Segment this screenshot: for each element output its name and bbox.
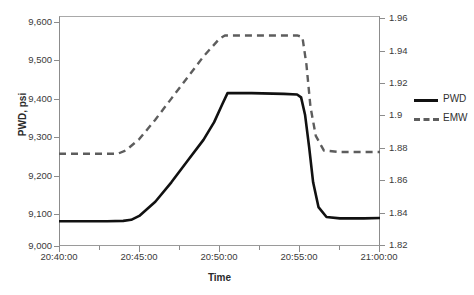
chart-legend: PWD EMW bbox=[414, 92, 474, 130]
y-axis-title: PWD, psi bbox=[17, 70, 28, 160]
ytick-label-right: 1.84 bbox=[389, 208, 408, 218]
ytick-label-right: 1.82 bbox=[389, 240, 408, 250]
ytick-label-left: 9,500 bbox=[8, 55, 52, 65]
legend-item-emw: EMW bbox=[414, 111, 474, 130]
ytick-label-left: 9,300 bbox=[8, 132, 52, 142]
xtick-mark-minor bbox=[99, 246, 100, 250]
xtick-label: 20:45:00 bbox=[108, 252, 170, 262]
legend-label: EMW bbox=[443, 112, 467, 123]
ytick-mark-left bbox=[54, 176, 59, 177]
ytick-mark-right bbox=[380, 213, 385, 214]
ytick-mark-right bbox=[380, 115, 385, 116]
ytick-mark-right bbox=[380, 18, 385, 19]
chart-screenshot: 9,600 9,500 9,400 9,300 9,200 9,100 9,00… bbox=[0, 0, 474, 295]
xtick-label: 20:55:00 bbox=[268, 252, 330, 262]
ytick-mark-right bbox=[380, 148, 385, 149]
chart-title bbox=[59, 0, 380, 1]
ytick-label-left: 9,100 bbox=[8, 209, 52, 219]
ytick-mark-right bbox=[380, 245, 385, 246]
plot-lines bbox=[59, 16, 380, 246]
legend-label: PWD bbox=[443, 93, 466, 104]
x-axis-title: Time bbox=[59, 272, 380, 283]
series-line-emw bbox=[59, 35, 380, 153]
ytick-label-left: 9,200 bbox=[8, 171, 52, 181]
ytick-label-right: 1.9 bbox=[389, 110, 402, 120]
ytick-mark-left bbox=[54, 137, 59, 138]
legend-swatch-solid-icon bbox=[414, 99, 438, 102]
ytick-label-left: 9,000 bbox=[8, 241, 52, 251]
ytick-mark-right bbox=[380, 180, 385, 181]
ytick-label-right: 1.94 bbox=[389, 46, 408, 56]
ytick-label-right: 1.86 bbox=[389, 175, 408, 185]
xtick-label: 20:50:00 bbox=[188, 252, 250, 262]
ytick-mark-right bbox=[380, 83, 385, 84]
xtick-label: 20:40:00 bbox=[28, 252, 90, 262]
ytick-mark-left bbox=[54, 214, 59, 215]
legend-swatch-dashed-icon bbox=[414, 118, 439, 121]
chart-figure: 9,600 9,500 9,400 9,300 9,200 9,100 9,00… bbox=[0, 0, 474, 295]
ytick-label-left: 9,400 bbox=[8, 94, 52, 104]
ytick-mark-left bbox=[54, 60, 59, 61]
xtick-mark-minor bbox=[179, 246, 180, 250]
ytick-label-right: 1.92 bbox=[389, 78, 408, 88]
xtick-mark-minor bbox=[339, 246, 340, 250]
ytick-label-right: 1.96 bbox=[389, 13, 408, 23]
ytick-mark-left bbox=[54, 22, 59, 23]
ytick-label-right: 1.88 bbox=[389, 143, 408, 153]
ytick-label-left: 9,600 bbox=[8, 17, 52, 27]
series-line-pwd bbox=[59, 93, 380, 221]
xtick-mark-minor bbox=[259, 246, 260, 250]
legend-item-pwd: PWD bbox=[414, 92, 474, 111]
ytick-mark-left bbox=[54, 99, 59, 100]
xtick-label: 21:00:00 bbox=[348, 252, 410, 262]
ytick-mark-right bbox=[380, 51, 385, 52]
